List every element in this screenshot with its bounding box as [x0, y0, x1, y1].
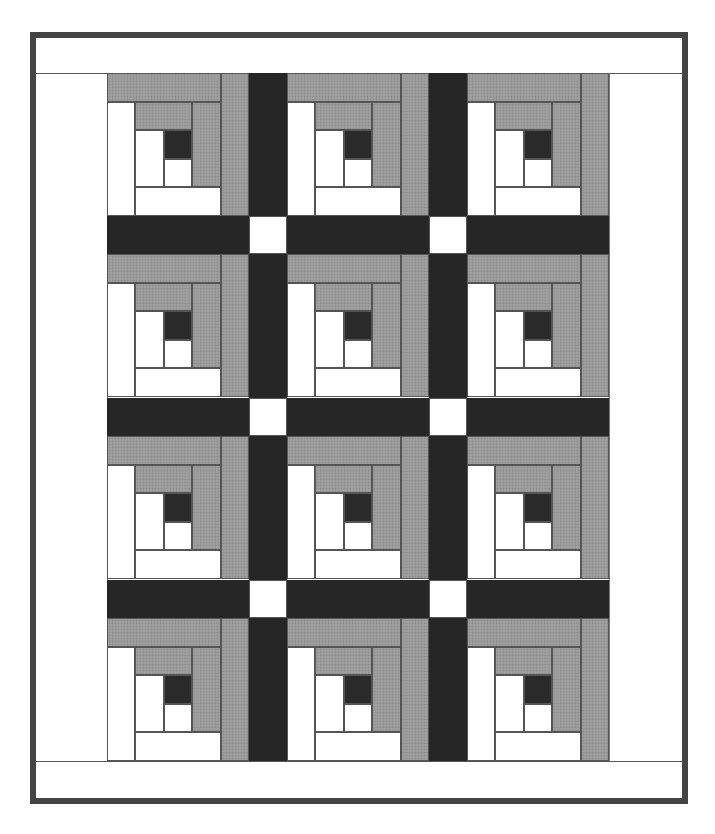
center-square [344, 130, 372, 159]
inner-bottom-log [344, 522, 372, 551]
center-square [344, 675, 372, 704]
right-log [401, 618, 429, 761]
inner-right-log [372, 465, 400, 551]
cornerstone [429, 216, 467, 254]
log-cabin-block [107, 436, 249, 579]
left-log [467, 283, 495, 397]
inner-top-log [495, 102, 552, 131]
inner-bottom-log [344, 159, 372, 188]
log-cabin-block [107, 254, 249, 397]
center-square [164, 311, 192, 340]
left-log [107, 465, 135, 579]
right-log [401, 254, 429, 397]
top-log [467, 436, 581, 465]
bottom-log [315, 368, 400, 397]
inner-top-log [315, 465, 372, 494]
left-log [287, 465, 315, 579]
inner-right-log [552, 102, 580, 188]
inner-left-log [135, 675, 163, 732]
bottom-log [135, 187, 220, 216]
inner-left-log [315, 130, 343, 187]
log-cabin-block [287, 436, 429, 579]
top-log [107, 254, 221, 283]
inner-left-log [495, 493, 523, 550]
right-log [581, 618, 609, 761]
right-log [221, 618, 249, 761]
horizontal-sashing [107, 216, 609, 254]
center-square [344, 493, 372, 522]
left-log [107, 647, 135, 761]
top-log [107, 436, 221, 465]
bottom-log [315, 732, 400, 761]
bottom-log [495, 368, 580, 397]
inner-right-log [192, 465, 220, 551]
inner-top-log [315, 647, 372, 676]
bottom-log [495, 732, 580, 761]
log-cabin-block [467, 73, 609, 216]
center-square [164, 493, 192, 522]
center-square [524, 311, 552, 340]
inner-bottom-log [164, 340, 192, 369]
inner-top-log [135, 102, 192, 131]
inner-right-log [192, 283, 220, 369]
inner-bottom-log [524, 522, 552, 551]
inner-right-log [372, 647, 400, 733]
horizontal-sashing [107, 580, 609, 618]
bottom-log [135, 368, 220, 397]
log-cabin-block [107, 618, 249, 761]
inner-top-log [315, 283, 372, 312]
inner-right-log [552, 647, 580, 733]
right-log [221, 254, 249, 397]
inner-top-log [135, 647, 192, 676]
inner-bottom-log [164, 522, 192, 551]
center-square [344, 311, 372, 340]
log-cabin-block [467, 254, 609, 397]
inner-top-log [135, 283, 192, 312]
inner-right-log [552, 283, 580, 369]
right-log [221, 73, 249, 216]
bottom-log [315, 550, 400, 579]
inner-bottom-log [164, 704, 192, 733]
top-log [467, 73, 581, 102]
inner-left-log [135, 130, 163, 187]
inner-right-log [192, 102, 220, 188]
center-square [164, 675, 192, 704]
left-log [107, 102, 135, 216]
left-log [467, 102, 495, 216]
log-cabin-block [287, 618, 429, 761]
top-log [287, 73, 401, 102]
inner-left-log [135, 311, 163, 368]
inner-left-log [495, 675, 523, 732]
inner-right-log [372, 283, 400, 369]
left-log [467, 647, 495, 761]
center-square [524, 130, 552, 159]
left-log [467, 465, 495, 579]
left-log [287, 647, 315, 761]
bottom-log [495, 550, 580, 579]
right-log [581, 254, 609, 397]
center-square [164, 130, 192, 159]
quilt-top [107, 73, 609, 761]
log-cabin-block [287, 73, 429, 216]
right-log [221, 436, 249, 579]
right-border-line [609, 73, 610, 761]
left-log [287, 102, 315, 216]
top-log [287, 618, 401, 647]
inner-top-log [495, 465, 552, 494]
right-log [581, 436, 609, 579]
log-cabin-block [467, 618, 609, 761]
bottom-log [495, 187, 580, 216]
bottom-log [135, 732, 220, 761]
inner-bottom-log [524, 704, 552, 733]
bottom-border-line [36, 761, 682, 762]
inner-top-log [495, 647, 552, 676]
inner-top-log [315, 102, 372, 131]
inner-left-log [315, 493, 343, 550]
center-square [524, 675, 552, 704]
top-log [287, 436, 401, 465]
right-log [401, 436, 429, 579]
inner-bottom-log [344, 340, 372, 369]
inner-right-log [192, 647, 220, 733]
inner-right-log [372, 102, 400, 188]
horizontal-sashing [107, 398, 609, 436]
